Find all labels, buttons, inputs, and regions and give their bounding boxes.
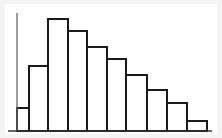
histogram-figure	[0, 0, 222, 138]
histogram-bar	[167, 103, 187, 131]
histogram-bar	[87, 47, 107, 131]
histogram-bar	[48, 19, 68, 131]
histogram-bar	[126, 75, 147, 131]
histogram-bar	[187, 121, 207, 131]
histogram-bar	[107, 59, 126, 131]
histogram-bar	[68, 31, 87, 131]
histogram-bar	[29, 66, 48, 131]
histogram-bar	[17, 108, 29, 131]
histogram-bar	[147, 90, 167, 131]
histogram-plot-area	[0, 0, 222, 138]
